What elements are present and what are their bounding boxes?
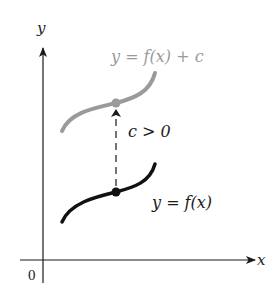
y-axis-label: y: [36, 19, 46, 37]
shifted-point: [112, 99, 121, 108]
original-curve: [62, 164, 155, 222]
origin-label: 0: [28, 267, 36, 283]
original-curve-label: y = f(x): [151, 193, 212, 212]
original-point: [112, 188, 121, 197]
vertical-shift-diagram: y x 0 y = f(x) + c c > 0 y = f(x): [0, 0, 279, 298]
shifted-curve-label: y = f(x) + c: [110, 47, 204, 66]
shift-label: c > 0: [128, 122, 171, 141]
x-axis-label: x: [257, 251, 266, 269]
